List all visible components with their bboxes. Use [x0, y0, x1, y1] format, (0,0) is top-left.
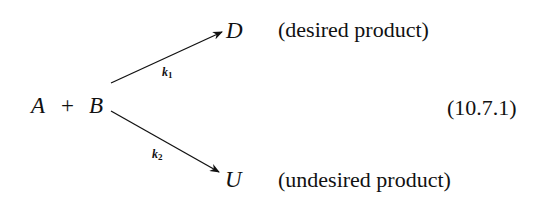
rate-constant-k2: k2 — [152, 148, 163, 162]
product-d: D — [226, 19, 243, 42]
arrow-to-undesired-icon — [111, 111, 219, 172]
rate-k1-subscript: 1 — [168, 70, 173, 80]
rate-constant-k1: k1 — [162, 66, 173, 80]
desired-product-label: (desired product) — [278, 19, 429, 41]
undesired-product-label: (undesired product) — [278, 169, 451, 191]
equation-number: (10.7.1) — [447, 97, 517, 119]
rate-k2-subscript: 2 — [158, 152, 163, 162]
product-u: U — [225, 168, 242, 191]
